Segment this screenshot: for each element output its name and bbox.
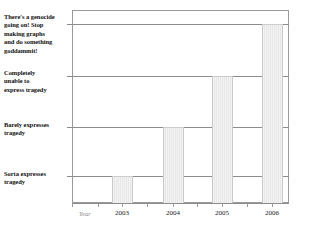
x-axis-line xyxy=(72,203,289,204)
ytick-label-level-2: Barely expresses tragedy xyxy=(4,121,68,138)
xtick-mark-origin xyxy=(72,203,73,207)
xtick-mark-2003 xyxy=(122,203,123,207)
xtick-label-2004: 2004 xyxy=(166,209,180,218)
xtick-mark-pre-2004 xyxy=(147,203,148,207)
ytick-label-level-2-line-1: Barely expresses xyxy=(4,121,68,129)
ytick-label-level-4-line-2: going on! Stop xyxy=(4,21,68,29)
ytick-label-level-1-line-2: tragedy xyxy=(4,178,68,186)
ytick-label-level-4: There's a genocide going on! Stop making… xyxy=(4,13,68,55)
bar-2006[interactable] xyxy=(262,24,283,203)
ytick-label-level-1-line-1: Sorta expresses xyxy=(4,170,68,178)
ytick-label-level-3-line-2: unable to xyxy=(4,77,68,85)
xtick-mark-pre-2003 xyxy=(98,203,99,207)
x-axis-title: Year xyxy=(79,209,91,218)
ytick-label-level-4-line-3: making graphs xyxy=(4,30,68,38)
ytick-label-level-3-line-1: Completely xyxy=(4,69,68,77)
ytick-label-level-1: Sorta expresses tragedy xyxy=(4,170,68,187)
gridline-level-4 xyxy=(72,24,289,25)
ytick-label-level-4-line-1: There's a genocide xyxy=(4,13,68,21)
ytick-label-level-3: Completely unable to express tragedy xyxy=(4,69,68,94)
xtick-mark-2004 xyxy=(173,203,174,207)
bar-2003[interactable] xyxy=(112,176,133,203)
xtick-mark-2006 xyxy=(272,203,273,207)
ytick-label-level-2-line-2: tragedy xyxy=(4,129,68,137)
xtick-label-2003: 2003 xyxy=(115,209,129,218)
xtick-label-2005: 2005 xyxy=(215,209,229,218)
xtick-mark-pre-2006 xyxy=(247,203,248,207)
xtick-label-2006: 2006 xyxy=(265,209,279,218)
bar-2005[interactable] xyxy=(212,76,233,203)
ytick-label-level-4-line-4: and do something xyxy=(4,38,68,46)
bar-chart-figure: There's a genocide going on! Stop making… xyxy=(0,0,316,241)
ytick-label-level-4-line-5: goddammit! xyxy=(4,47,68,55)
xtick-mark-2005 xyxy=(222,203,223,207)
bar-2004[interactable] xyxy=(163,127,184,203)
ytick-label-level-3-line-3: express tragedy xyxy=(4,86,68,94)
xtick-mark-pre-2005 xyxy=(197,203,198,207)
gridline-level-3 xyxy=(72,76,289,77)
